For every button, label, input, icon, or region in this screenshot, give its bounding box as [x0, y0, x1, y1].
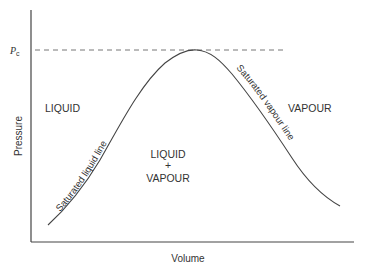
- y-axis-title: Pressure: [13, 116, 24, 156]
- region-mixed-bottom: VAPOUR: [146, 172, 190, 184]
- region-vapour: VAPOUR: [288, 102, 332, 114]
- region-mixed-plus: +: [165, 159, 171, 171]
- critical-pressure-label: Pc: [9, 45, 20, 57]
- pv-diagram: Pc Saturated liquid line Saturated vapou…: [0, 0, 365, 277]
- saturated-vapour-curve: [197, 50, 340, 206]
- pc-subscript: c: [16, 50, 20, 57]
- pc-symbol: P: [9, 45, 16, 56]
- x-axis-title: Volume: [171, 253, 205, 264]
- saturated-liquid-label: Saturated liquid line: [53, 138, 108, 213]
- region-liquid: LIQUID: [45, 102, 80, 114]
